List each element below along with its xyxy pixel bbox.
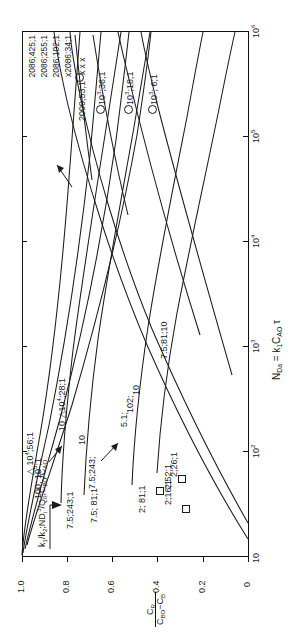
y-tick-label: 0: [243, 582, 252, 587]
y-axis-numerator: CR: [146, 592, 155, 627]
x-tick-label: 105: [252, 130, 261, 143]
x-axis-title: NDa = k1CAO τ: [272, 320, 282, 380]
triangle-marker: △: [25, 468, 35, 475]
curve-label-2-26-1: 2;26;1: [170, 452, 179, 477]
circle-marker: [96, 105, 105, 114]
x-series-label-0: 2086;425;1: [28, 35, 37, 78]
x-marker: x: [63, 73, 73, 77]
curve-label-7p5-81-10: 7.5;81;10: [160, 321, 169, 359]
curve-2-16-1: [157, 32, 235, 473]
y-tick-label: 1.0: [17, 580, 26, 593]
circle-series-label-1e3-36-1: 103;36;1: [98, 72, 107, 105]
circle-series-label-1e3-18-1: 103;18;1: [126, 72, 135, 105]
curve-label-5p1-102-10-b: 102;: [126, 395, 135, 413]
square-marker: [182, 505, 190, 513]
curve-label-5p1-102-10: 5.1;: [120, 412, 129, 427]
circle-marker: [124, 105, 133, 114]
x-tick-label: 102: [252, 445, 261, 458]
square-marker: [178, 475, 186, 483]
chart-figure: 10 102 103 104 105 106 NDa = k1CAO τ 0 0…: [0, 0, 308, 635]
annotation-arrowhead-upper: [57, 165, 64, 173]
curve-label-7p5-243-10: 7.5;243;: [88, 456, 97, 489]
curve-7p5-243-1: [61, 32, 121, 503]
y-tick-label: 0.8: [62, 580, 71, 593]
x-tick-label: 106: [252, 25, 261, 38]
y-tick-label: 0.2: [198, 580, 207, 593]
curve-label-5p1-102-10-c: 10: [132, 385, 141, 395]
y-tick-label: 0.6: [107, 580, 116, 593]
x-series-label-2: 2086;102;1: [52, 35, 61, 78]
x-series-label-3: x2086;34;1: [64, 35, 73, 77]
x-tick-label: 10: [252, 553, 261, 563]
y-axis-denominator: CBO−CB: [155, 592, 165, 627]
curve-100-1e5-1: [22, 32, 80, 555]
y-axis-title: CR CBO−CB: [146, 592, 165, 627]
x-tick-label: 104: [252, 235, 261, 248]
x-tick-label: 103: [252, 340, 261, 353]
curve-label-1e4-28-1: 10 △104;28;1: [58, 378, 67, 431]
circle-series-label-2000-53-1: 2000;53;1: [78, 81, 87, 121]
triangle-marker: △: [57, 411, 67, 418]
curve-label-7p5-81-1: 7.5; 81;1: [90, 488, 99, 523]
curve-label-1e4-56-1: △ 104;56;1: [26, 432, 35, 475]
curve-label-2-81-1: 2; 81;1: [138, 485, 147, 513]
circle-marker: [148, 105, 157, 114]
curve-label-7p5-243-10-cont: 10: [78, 435, 87, 445]
curve-label-100-1e5-1: 100; 105;1: [34, 458, 43, 499]
figure-rotation-wrapper: 10 102 103 104 105 106 NDa = k1CAO τ 0 0…: [0, 0, 308, 635]
circle-marker: [75, 73, 84, 82]
circle-series-label-1e3-6-1: 103; 6;1: [150, 74, 159, 105]
square-marker: [156, 487, 164, 495]
curve-label-7p5-243-1: 7.5;243;1: [66, 491, 75, 529]
curve-7p5-81-1: [84, 32, 150, 495]
legend-bracket-arrow: [50, 505, 58, 549]
x-series-label-1: 2086;255;1: [40, 35, 49, 78]
